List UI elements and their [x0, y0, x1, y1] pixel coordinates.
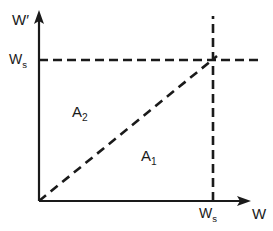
- x-axis: [39, 196, 251, 206]
- diagram-vector-layer: [0, 0, 273, 231]
- x-axis-label-text: W: [252, 205, 266, 222]
- region-label-a2: A2: [72, 104, 88, 123]
- region-a1-base-text: A: [141, 147, 151, 164]
- region-a2-subscript-text: 2: [82, 112, 88, 123]
- region-a1-subscript-text: 1: [151, 156, 157, 167]
- y-tick-base-text: W: [9, 51, 22, 67]
- y-tick-subscript-text: s: [22, 59, 27, 70]
- y-axis: [34, 10, 44, 201]
- region-a2-base-text: A: [72, 103, 82, 120]
- x-tick-subscript-text: s: [212, 213, 217, 224]
- y-axis-tick-label-ws: Ws: [9, 52, 27, 69]
- diagonal-dashed-line: [39, 56, 217, 201]
- region-label-a1: A1: [141, 148, 157, 167]
- y-axis-label: W′: [12, 12, 29, 27]
- y-axis-label-text: W′: [12, 11, 29, 28]
- x-axis-label: W: [252, 206, 266, 221]
- x-axis-tick-label-ws: Ws: [199, 206, 217, 223]
- x-tick-base-text: W: [199, 205, 212, 221]
- diagram-canvas: W′ W Ws Ws A2 A1: [0, 0, 273, 231]
